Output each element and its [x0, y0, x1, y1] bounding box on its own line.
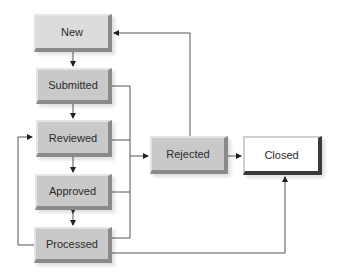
state-new[interactable]: New — [34, 14, 112, 52]
state-closed[interactable]: Closed — [243, 136, 322, 175]
state-reviewed[interactable]: Reviewed — [36, 120, 112, 157]
state-new-label: New — [61, 26, 83, 38]
state-approved-label: Approved — [49, 185, 96, 197]
state-processed-label: Processed — [46, 238, 98, 250]
state-rejected[interactable]: Rejected — [150, 136, 228, 174]
state-approved[interactable]: Approved — [35, 174, 112, 210]
state-submitted-label: Submitted — [48, 79, 98, 91]
state-processed[interactable]: Processed — [34, 227, 112, 263]
state-reviewed-label: Reviewed — [49, 132, 97, 144]
state-closed-label: Closed — [264, 149, 298, 161]
state-submitted[interactable]: Submitted — [36, 68, 112, 104]
state-rejected-label: Rejected — [166, 148, 209, 160]
